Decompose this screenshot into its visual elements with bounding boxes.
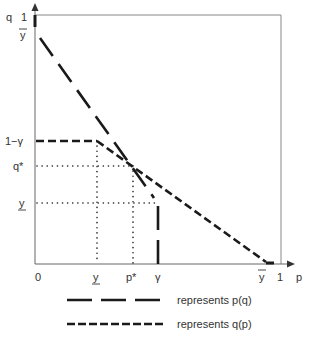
dotted-guides (37, 141, 156, 263)
legend: represents p(q) represents q(p) (67, 294, 252, 330)
p-axis-label: p (296, 271, 302, 283)
legend-item-p-of-q: represents p(q) (67, 294, 252, 306)
x-axis (35, 261, 295, 268)
tick-one-right: 1 (277, 271, 283, 283)
y-axis (32, 3, 39, 264)
tick-one-minus-gamma: 1−γ (5, 135, 24, 147)
tick-gamma: γ (155, 271, 161, 283)
tick-yunder-p: y (93, 271, 99, 283)
diagram-canvas: q 1 y 1−γ q* y 0 y p* γ y 1 p represents… (0, 0, 312, 337)
legend-label-q-of-p: represents q(p) (177, 318, 252, 330)
tick-qstar: q* (13, 160, 24, 172)
q-axis-label: q (6, 11, 12, 23)
curve-p-of-q (35, 15, 158, 264)
tick-one-top: 1 (21, 11, 27, 23)
legend-label-p-of-q: represents p(q) (177, 294, 252, 306)
y-axis-arrow-icon (32, 3, 39, 11)
tick-ybar-q: y (20, 29, 26, 41)
legend-item-q-of-p: represents q(p) (67, 318, 252, 330)
tick-ybar-p: y (259, 271, 265, 283)
curve-q-of-p (36, 141, 274, 263)
x-axis-arrow-icon (287, 261, 295, 268)
tick-yunder-q: y (19, 197, 25, 209)
tick-pstar: p* (126, 271, 137, 283)
tick-zero: 0 (35, 271, 41, 283)
